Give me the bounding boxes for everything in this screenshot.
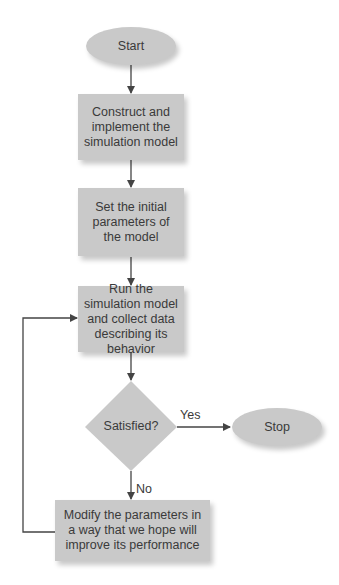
stop-node: Stop: [232, 408, 322, 446]
set-parameters-step: Set the initial parameters of the model: [78, 188, 184, 256]
satisfied-decision: Satisfied?: [85, 381, 177, 471]
construct-model-step: Construct and implement the simulation m…: [78, 94, 184, 160]
run-simulation-step: Run the simulation model and collect dat…: [78, 286, 184, 352]
set-parameters-label: Set the initial parameters of the model: [92, 200, 170, 245]
construct-model-label: Construct and implement the simulation m…: [84, 105, 178, 150]
modify-parameters-step: Modify the parameters in a way that we h…: [55, 500, 210, 561]
no-edge-label: No: [136, 482, 152, 496]
modify-parameters-label: Modify the parameters in a way that we h…: [59, 508, 206, 553]
stop-label: Stop: [264, 420, 290, 435]
satisfied-label: Satisfied?: [104, 419, 159, 433]
start-label: Start: [118, 39, 144, 54]
start-node: Start: [86, 27, 176, 65]
yes-edge-label: Yes: [180, 408, 200, 422]
run-simulation-label: Run the simulation model and collect dat…: [82, 282, 180, 357]
